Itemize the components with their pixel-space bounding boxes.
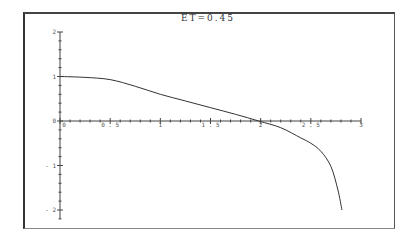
data-curve [60,77,342,211]
x-tick-label: 1 . 5 [201,121,219,128]
y-tick-label: 2 [52,28,56,35]
y-tick-label: 0 [52,117,56,124]
x-tick-label: 1 [159,121,163,128]
x-tick-label: 3 [359,121,363,128]
x-tick-label: 0 . 5 [101,121,119,128]
plot-area: 00 . 511 . 522 . 53210- 1- 2 [0,0,416,244]
x-tick-label: 2 . 5 [302,121,320,128]
y-tick-label: - 1 [45,162,56,169]
y-tick-label: 1 [52,73,56,80]
y-tick-label: - 2 [45,206,56,213]
x-tick-label: 0 [62,121,66,128]
